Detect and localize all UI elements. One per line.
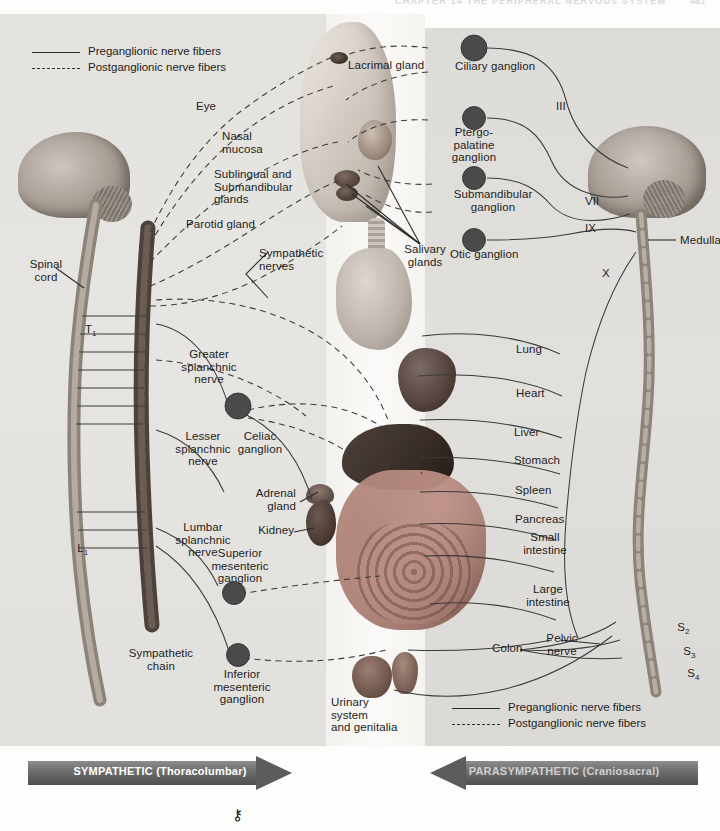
label-medulla: Medulla <box>680 234 720 247</box>
pelvic-nerve-fibers <box>394 622 622 696</box>
legend-label-postganglionic: Postganglionic nerve fibers <box>88 61 226 73</box>
label-nasal-mucosa: Nasal mucosa <box>222 130 263 155</box>
ciliary-ganglion-dot <box>461 35 487 61</box>
label-s4-root: S <box>687 667 695 679</box>
legend-solid-swatch <box>32 52 80 53</box>
key-icon: ⚷ <box>232 806 242 824</box>
inferior-mesenteric-ganglion-dot <box>227 644 250 667</box>
parasympathetic-arrow-label: PARASYMPATHETIC (Craniosacral) <box>430 765 698 777</box>
parasympathetic-direction-arrow: PARASYMPATHETIC (Craniosacral) <box>430 756 698 790</box>
label-sympathetic-chain: Sympathetic chain <box>118 647 204 672</box>
legend-label-postganglionic-bottom: Postganglionic nerve fibers <box>508 717 646 729</box>
parasympathetic-spinal-cord <box>638 214 656 692</box>
label-organ-large-intestine: Large intestine <box>516 583 580 608</box>
label-cranial-nerve-iii: III <box>556 100 566 113</box>
label-sublingual-submandibular-glands: Sublingual and Submandibular glands <box>214 168 293 206</box>
label-spinal-level-t1: T1 <box>72 310 97 353</box>
legend-dashed-swatch-bottom <box>452 724 500 725</box>
sympathetic-arrow-label: SYMPATHETIC (Thoracolumbar) <box>28 765 292 777</box>
label-pterygopalatine-ganglion: Ptergo- palatine ganglion <box>440 126 508 164</box>
superior-mesenteric-ganglion-dot <box>223 582 246 605</box>
label-salivary-glands: Salivary glands <box>396 243 454 268</box>
diagram-page: CHAPTER 14 THE PERIPHERAL NERVOUS SYSTEM… <box>0 0 720 831</box>
label-organ-spleen: Spleen <box>515 484 551 497</box>
label-greater-splanchnic-nerve: Greater splanchnic nerve <box>166 348 252 386</box>
label-parotid-gland: Parotid gland <box>186 218 255 231</box>
celiac-ganglion-dot <box>225 393 251 419</box>
label-organ-stomach: Stomach <box>514 454 560 467</box>
label-ciliary-ganglion: Ciliary ganglion <box>455 60 535 73</box>
label-adrenal-gland: Adrenal gland <box>226 487 296 512</box>
label-organ-colon: Colon <box>492 642 523 655</box>
label-eye: Eye <box>196 100 216 113</box>
legend-solid-swatch-bottom <box>452 708 500 709</box>
label-spinal-cord: Spinal cord <box>16 258 76 283</box>
label-t1-sub: 1 <box>92 329 97 338</box>
label-kidney: Kidney <box>228 524 294 537</box>
label-submandibular-ganglion: Submandibular ganglion <box>444 188 542 213</box>
label-organ-small-intestine: Small intestine <box>512 531 578 556</box>
submandibular-ganglion-dot <box>463 167 486 190</box>
label-organ-pancreas: Pancreas <box>515 513 564 526</box>
sympathetic-spinal-cord <box>74 205 100 700</box>
label-lacrimal-gland: Lacrimal gland <box>348 59 424 72</box>
label-organ-lung: Lung <box>516 343 542 356</box>
sympathetic-chain-illustration <box>141 228 152 625</box>
legend-label-preganglionic: Preganglionic nerve fibers <box>88 45 221 57</box>
label-cranial-nerve-ix: IX <box>585 222 596 235</box>
label-cranial-nerve-vii: VII <box>585 195 599 208</box>
kidney-pointer <box>294 528 314 532</box>
label-sympathetic-nerves: Sympathetic nerves <box>259 247 323 272</box>
salivary-glands-pointers <box>346 166 420 244</box>
label-superior-mesenteric-ganglion: Superior mesenteric ganglion <box>198 547 282 585</box>
label-celiac-ganglion: Celiac ganglion <box>226 430 294 455</box>
label-cranial-nerve-x: X <box>602 267 610 280</box>
label-spinal-level-l1: L1 <box>64 529 88 572</box>
label-s4-sub: 4 <box>695 673 700 682</box>
label-sacral-s4: S4 <box>674 654 700 697</box>
label-pelvic-nerve: Pelvic nerve <box>538 632 586 657</box>
label-organ-heart: Heart <box>516 387 545 400</box>
legend-dashed-swatch <box>32 68 80 69</box>
sympathetic-direction-arrow: SYMPATHETIC (Thoracolumbar) <box>28 756 292 790</box>
label-l1-sub: 1 <box>84 548 89 557</box>
adrenal-gland-pointer <box>300 492 318 502</box>
legend-label-preganglionic-bottom: Preganglionic nerve fibers <box>508 701 641 713</box>
label-s2-root: S <box>677 621 685 633</box>
label-organ-liver: Liver <box>514 426 539 439</box>
label-urinary-system-and-genitalia: Urinary system and genitalia <box>331 696 398 734</box>
label-otic-ganglion: Otic ganglion <box>450 248 518 261</box>
label-inferior-mesenteric-ganglion: Inferior mesenteric ganglion <box>200 668 284 706</box>
